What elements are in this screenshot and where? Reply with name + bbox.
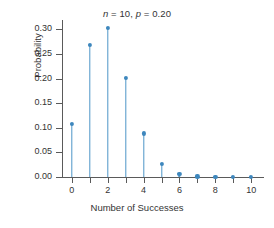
stem-line: [125, 78, 126, 177]
x-tick: [197, 178, 198, 183]
stem-line: [71, 124, 72, 177]
title-n-symbol: n: [103, 8, 108, 19]
x-tick: [179, 178, 180, 183]
x-tick: [162, 178, 163, 183]
data-point: [231, 175, 235, 179]
x-tick: [90, 178, 91, 183]
plot-area: [62, 22, 262, 177]
x-tick: [126, 178, 127, 183]
stem-line: [161, 164, 162, 177]
stem-line: [89, 45, 90, 177]
y-tick-label: 0.10: [34, 122, 52, 132]
x-tick-label: 2: [105, 185, 110, 195]
data-point: [159, 162, 163, 166]
x-tick-label: 6: [177, 185, 182, 195]
x-tick-label: 8: [213, 185, 218, 195]
data-point: [249, 175, 253, 179]
x-tick: [108, 178, 109, 183]
title-p-symbol: p: [136, 8, 141, 19]
x-tick-label: 10: [246, 185, 256, 195]
chart-figure: n = 10, p = 0.20 0.000.050.100.150.200.2…: [0, 0, 274, 228]
title-n-value: = 10,: [111, 8, 133, 19]
data-point: [213, 175, 217, 179]
title-p-value: = 0.20: [144, 8, 171, 19]
data-point: [106, 26, 110, 30]
data-point: [70, 122, 74, 126]
x-axis-label: Number of Successes: [0, 202, 274, 213]
x-tick: [144, 178, 145, 183]
y-tick-label: 0.05: [34, 146, 52, 156]
data-point: [195, 175, 199, 179]
y-tick: 0.00: [56, 177, 62, 178]
data-point: [177, 172, 181, 176]
data-point: [124, 76, 128, 80]
stem-line: [107, 28, 108, 177]
stem-line: [143, 134, 144, 177]
x-tick-label: 4: [141, 185, 146, 195]
x-tick-label: 0: [69, 185, 74, 195]
data-point: [88, 43, 92, 47]
data-point: [142, 132, 146, 136]
y-axis-label: Probability: [32, 1, 43, 111]
x-tick: [72, 178, 73, 183]
y-tick-label: 0.00: [34, 171, 52, 181]
